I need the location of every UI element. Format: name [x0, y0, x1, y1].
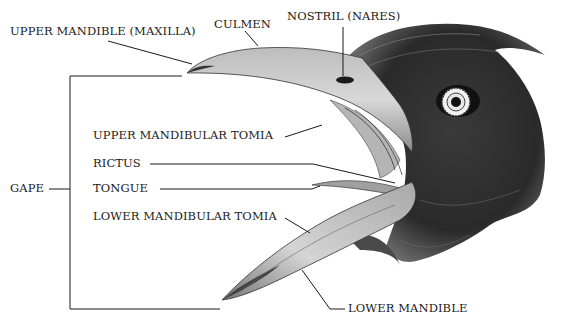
lower-mandible: [222, 182, 416, 300]
label-gape: GAPE: [10, 183, 44, 195]
eye: [436, 85, 480, 117]
bird-illustration: [0, 0, 564, 331]
label-upper-mandibular-tomia: UPPER MANDIBULAR TOMIA: [93, 130, 273, 142]
label-upper-mandible: UPPER MANDIBLE (MAXILLA): [10, 26, 196, 38]
label-tongue: TONGUE: [93, 183, 148, 195]
label-lower-mandible: LOWER MANDIBLE: [348, 303, 467, 315]
beak-anatomy-diagram: UPPER MANDIBLE (MAXILLA) CULMEN NOSTRIL …: [0, 0, 564, 331]
label-culmen: CULMEN: [214, 19, 271, 31]
label-lower-mandibular-tomia: LOWER MANDIBULAR TOMIA: [93, 211, 277, 223]
label-nostril: NOSTRIL (NARES): [287, 11, 400, 23]
label-rictus: RICTUS: [93, 158, 141, 170]
